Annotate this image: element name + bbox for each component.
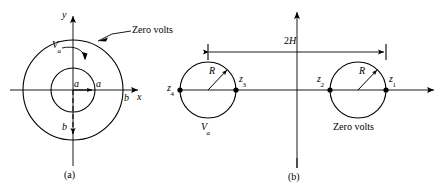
panel-b-point-z1-label: z1 — [389, 74, 396, 87]
panel-b-z2-subscript: 2 — [320, 81, 324, 89]
panel-b-right-radius-label: R — [359, 66, 365, 76]
panel-a-va-curved-leader — [62, 47, 85, 59]
panel-b-caption: (b) — [288, 171, 300, 182]
panel-a-y-axis-label: y — [62, 10, 66, 20]
panel-b-dimension-symbol: H — [289, 35, 296, 46]
panel-b-graphics — [177, 12, 434, 168]
panel-b-point-z2-label: z2 — [317, 74, 324, 87]
panel-a-va-arrowhead — [82, 52, 88, 61]
panel-b-point-z3-dot — [233, 87, 238, 92]
panel-a-x-axis-label: x — [137, 92, 141, 102]
panel-a-caption: (a) — [64, 169, 75, 180]
panel-b-point-z4-dot — [177, 87, 182, 92]
panel-a-zero-volts-label: Zero volts — [132, 25, 173, 35]
panel-b-left-radius-label: R — [209, 66, 215, 76]
figure-container: y x Zero volts Va a a b b (a) 2H R R z4 … — [0, 0, 443, 190]
panel-b-point-z4-label: z4 — [167, 83, 174, 96]
panel-a-outer-radius-label-x: b — [124, 93, 129, 103]
figure-svg — [0, 0, 443, 190]
panel-a-outer-radius-label-y: b — [62, 122, 67, 132]
panel-b-va-label: Va — [201, 122, 211, 135]
panel-a-inner-radius-label-left: a — [74, 79, 79, 89]
panel-b-point-z1-dot — [383, 87, 388, 92]
panel-b-point-z3-label: z3 — [239, 74, 246, 87]
panel-b-dimension-label: 2H — [284, 36, 296, 46]
panel-a-va-subscript: a — [58, 47, 62, 55]
panel-b-va-subscript: a — [207, 129, 211, 137]
panel-a-va-label: Va — [52, 40, 62, 53]
panel-b-z4-subscript: 4 — [170, 90, 174, 98]
panel-b-point-z2-dot — [327, 87, 332, 92]
panel-b-z1-subscript: 1 — [392, 81, 396, 89]
panel-b-z3-subscript: 3 — [242, 81, 246, 89]
panel-b-zero-volts-label: Zero volts — [333, 122, 374, 132]
panel-a-inner-radius-label-right: a — [96, 79, 101, 89]
